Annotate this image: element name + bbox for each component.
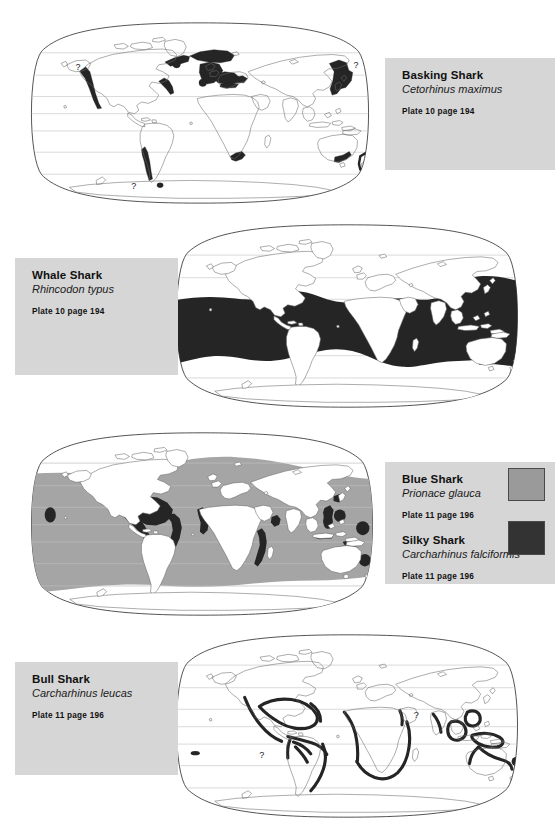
panel-bull-shark: ? ? Bull Shark Carcharhinus leucas Plate… (0, 630, 555, 822)
species-scientific-name: Carcharhinus leucas (32, 686, 178, 700)
species-scientific-name: Cetorhinus maximus (402, 82, 555, 96)
species-plate-reference: Plate 11 page 196 (402, 511, 555, 520)
label-box-whale-shark: Whale Shark Rhincodon typus Plate 10 pag… (15, 258, 178, 375)
legend-swatch-blue-shark (508, 468, 545, 501)
species-entry: Basking Shark Cetorhinus maximus Plate 1… (402, 69, 555, 116)
panel-blue-silky-shark: Blue Shark Prionace glauca Plate 11 page… (0, 416, 555, 630)
species-plate-reference: Plate 10 page 194 (32, 307, 178, 316)
panel-basking-shark: ? ? ? Basking Shark Cetorhinus maximus P… (0, 0, 555, 208)
species-scientific-name: Rhincodon typus (32, 282, 178, 296)
panel-whale-shark: Whale Shark Rhincodon typus Plate 10 pag… (0, 208, 555, 416)
map-frame (31, 23, 368, 203)
map-frame (176, 635, 517, 817)
species-entry: Bull Shark Carcharhinus leucas Plate 11 … (32, 673, 178, 720)
species-plate-reference: Plate 11 page 196 (32, 711, 178, 720)
map-whale-shark[interactable] (173, 220, 521, 412)
label-box-bull-shark: Bull Shark Carcharhinus leucas Plate 11 … (15, 662, 178, 775)
map-blue-silky-shark[interactable] (28, 428, 376, 620)
map-basking-shark[interactable]: ? ? ? (28, 18, 372, 208)
species-plate-reference: Plate 11 page 196 (402, 572, 555, 581)
species-common-name: Bull Shark (32, 673, 178, 686)
species-plate-reference: Plate 10 page 194 (402, 107, 555, 116)
label-box-basking-shark: Basking Shark Cetorhinus maximus Plate 1… (385, 58, 555, 170)
species-entry: Whale Shark Rhincodon typus Plate 10 pag… (32, 269, 178, 316)
species-common-name: Whale Shark (32, 269, 178, 282)
svg-text:?: ? (131, 181, 136, 191)
svg-text:?: ? (259, 750, 264, 760)
svg-text:?: ? (353, 60, 358, 70)
species-common-name: Basking Shark (402, 69, 555, 82)
map-bull-shark[interactable]: ? ? (173, 630, 521, 822)
legend-swatch-silky-shark (508, 521, 545, 555)
svg-text:?: ? (75, 62, 80, 72)
